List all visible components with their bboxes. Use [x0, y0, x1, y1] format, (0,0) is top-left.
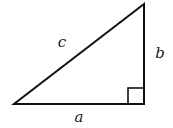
- right-triangle-diagram: c b a: [0, 0, 173, 128]
- label-hypotenuse: c: [58, 33, 67, 51]
- right-angle-marker: [128, 88, 144, 104]
- triangle-outline: [14, 4, 144, 104]
- label-horizontal-leg: a: [75, 108, 84, 126]
- label-vertical-leg: b: [155, 44, 165, 62]
